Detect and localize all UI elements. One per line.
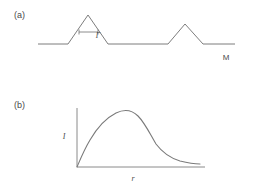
figure-svg: (a) Γ M (b) I r <box>0 0 253 187</box>
panel-b-y-axis-label: I <box>62 132 66 141</box>
figure-container: (a) Γ M (b) I r <box>0 0 253 187</box>
panel-b-label: (b) <box>14 100 25 110</box>
peak-width-label: Γ <box>95 31 101 40</box>
panel-a: (a) Γ M <box>14 10 235 62</box>
panel-b-x-axis-label: r <box>131 174 135 183</box>
panel-b: (b) I r <box>14 100 205 183</box>
panel-a-x-axis-label: M <box>223 53 230 62</box>
panel-a-trace <box>38 15 235 44</box>
panel-a-label: (a) <box>14 10 25 20</box>
panel-b-distribution-curve <box>77 111 200 167</box>
